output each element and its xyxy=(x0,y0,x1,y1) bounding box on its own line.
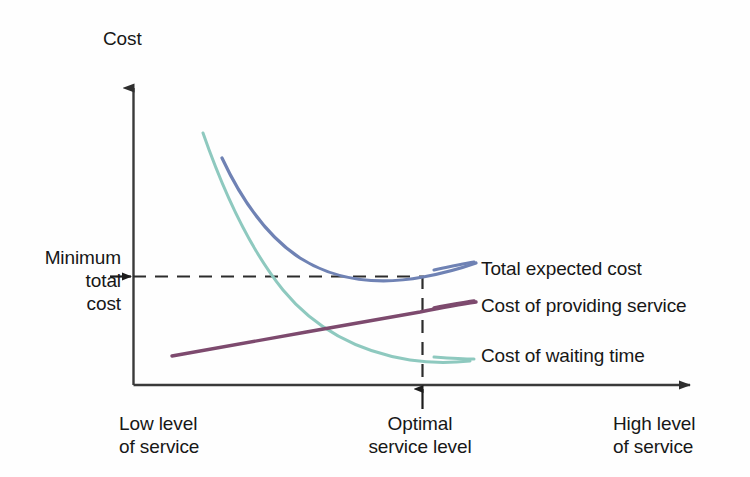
legend-swatch-cost-of-waiting-time xyxy=(434,357,474,359)
legend-label-cost-of-waiting-time: Cost of waiting time xyxy=(481,344,645,367)
x-axis-label-high-level: High level of service xyxy=(613,412,695,458)
x-axis-label-low-level: Low level of service xyxy=(119,412,199,458)
legend-label-cost-of-providing-service: Cost of providing service xyxy=(481,294,687,317)
minimum-total-cost-label: Minimum total cost xyxy=(31,246,121,315)
legend-label-total-expected-cost: Total expected cost xyxy=(481,257,642,280)
x-axis-label-optimal-service-level: Optimal service level xyxy=(330,412,510,458)
queueing-cost-figure: Cost Minimum total cost Total expected c… xyxy=(0,0,750,477)
curve-cost-of-providing-service xyxy=(172,302,476,356)
y-axis-title: Cost xyxy=(103,27,142,50)
plot-canvas xyxy=(0,0,750,477)
curve-total-expected-cost xyxy=(222,158,476,281)
